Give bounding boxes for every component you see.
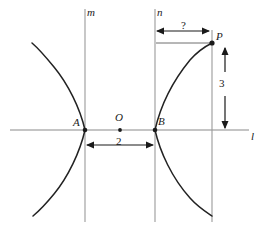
hyperbola-right-branch-lower — [155, 130, 212, 216]
label-line-m: m — [87, 7, 95, 18]
label-unknown-distance: ? — [181, 20, 186, 31]
label-point-a: A — [73, 117, 80, 128]
label-point-p: P — [216, 31, 223, 42]
point-b-marker — [153, 128, 158, 133]
point-o-marker — [118, 128, 122, 132]
label-vertical-distance: 3 — [219, 78, 225, 89]
diagram-canvas — [0, 0, 271, 229]
hyperbola-left-branch-lower — [33, 130, 85, 216]
label-line-n: n — [157, 7, 163, 18]
label-point-o: O — [115, 112, 123, 123]
label-horizontal-distance: 2 — [116, 136, 122, 147]
label-axis-l: l — [251, 131, 254, 142]
label-point-b: B — [158, 116, 165, 127]
point-a-marker — [83, 128, 88, 133]
geometry-figure: m n l A O B P ? 3 2 — [0, 0, 271, 229]
point-p-marker — [209, 40, 214, 45]
